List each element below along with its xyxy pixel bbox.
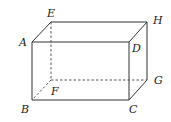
vertex-label-e: E xyxy=(46,7,55,20)
vertex-label-f: F xyxy=(50,85,59,98)
vertex-label-g: G xyxy=(154,74,163,87)
vertex-label-b: B xyxy=(20,103,29,116)
edge-ae xyxy=(32,22,51,42)
edge-gc xyxy=(129,80,147,100)
vertex-label-h: H xyxy=(152,14,163,27)
hidden-edge-fb xyxy=(32,80,51,100)
prism-diagram: A E H D G F B C xyxy=(0,0,171,122)
vertex-label-d: D xyxy=(131,42,141,55)
vertex-label-a: A xyxy=(18,36,27,49)
edge-hd xyxy=(129,22,147,42)
vertex-label-c: C xyxy=(129,103,138,116)
